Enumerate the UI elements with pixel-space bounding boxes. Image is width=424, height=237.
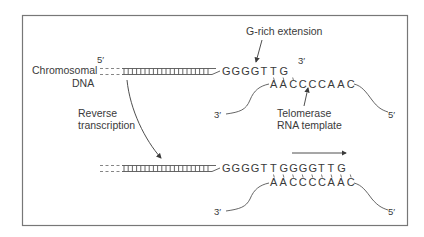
base-letter: A (328, 176, 336, 188)
base-letter: G (232, 162, 241, 174)
five-prime-label: 5′ (97, 54, 104, 65)
base-letter: A (270, 176, 278, 188)
rna-template-top: AACCCCAAC (270, 78, 355, 90)
base-letter: C (299, 176, 307, 188)
rna-template-bottom: AACCCCAAC (270, 176, 355, 188)
dna-duplex-top (122, 69, 220, 75)
base-letter: G (299, 162, 308, 174)
base-letter: G (251, 162, 260, 174)
base-letter: T (318, 162, 325, 174)
rna-5prime-tail-bottom (354, 183, 388, 210)
base-letter: G (337, 162, 346, 174)
base-letter: T (270, 65, 277, 77)
base-letter: C (308, 176, 316, 188)
base-letter: A (328, 78, 336, 90)
rna-five-prime-top: 5′ (388, 109, 395, 120)
base-letter: T (270, 162, 277, 174)
transcription-label: transcription (78, 119, 135, 131)
telomerase-diagram: Chromosomal DNA 5′ GGGGTTG 3′ G-rich ext… (0, 0, 424, 237)
g-rich-extension-label: G-rich extension (246, 25, 323, 37)
base-letter: G (222, 162, 231, 174)
base-letter: G (232, 65, 241, 77)
extension-pointer-arrow (256, 40, 262, 62)
diagram-canvas: Chromosomal DNA 5′ GGGGTTG 3′ G-rich ext… (0, 0, 424, 237)
base-letter: T (260, 65, 267, 77)
rna-5prime-tail-top (354, 84, 388, 112)
chromosomal-label: Chromosomal (32, 64, 97, 76)
base-letter: G (241, 65, 250, 77)
rna-template-label: RNA template (277, 119, 342, 131)
rna-3prime-tail-bottom (226, 183, 269, 211)
dna-duplex-bottom (122, 166, 220, 172)
base-letter: G (289, 162, 298, 174)
rna-five-prime-bottom: 5′ (388, 206, 395, 217)
base-letter: C (318, 78, 326, 90)
base-letter: C (347, 78, 355, 90)
base-letter: T (328, 162, 335, 174)
base-letter: C (289, 176, 297, 188)
base-letter: G (222, 65, 231, 77)
dna-g-strand-top: GGGGTTG (222, 65, 288, 77)
base-letter: A (280, 78, 288, 90)
base-letter: G (251, 65, 260, 77)
base-letter: A (337, 78, 345, 90)
base-letter: G (280, 162, 289, 174)
reverse-label: Reverse (78, 107, 117, 119)
base-letter: A (270, 78, 278, 90)
base-letter: T (260, 162, 267, 174)
base-letter: A (337, 176, 345, 188)
base-letter: C (308, 78, 316, 90)
dna-g-strand-bottom: GGGGTTGGGGTTG (222, 162, 346, 174)
telomerase-label: Telomerase (277, 107, 331, 119)
rna-three-prime-top: 3′ (214, 109, 221, 120)
base-letter: G (308, 162, 317, 174)
template-pointer-arrow (304, 88, 308, 106)
rna-three-prime-bottom: 3′ (214, 206, 221, 217)
base-letter: C (289, 78, 297, 90)
base-letter: A (280, 176, 288, 188)
base-letter: C (347, 176, 355, 188)
dashed-strand-bottom (100, 166, 120, 172)
base-letter: C (318, 176, 326, 188)
rna-3prime-tail-top (226, 84, 269, 114)
dna-label: DNA (72, 77, 94, 89)
three-prime-dna-label: 3′ (298, 55, 305, 66)
base-letter: G (241, 162, 250, 174)
base-letter: C (299, 78, 307, 90)
base-letter: G (280, 65, 289, 77)
dashed-strand-top (100, 69, 120, 75)
